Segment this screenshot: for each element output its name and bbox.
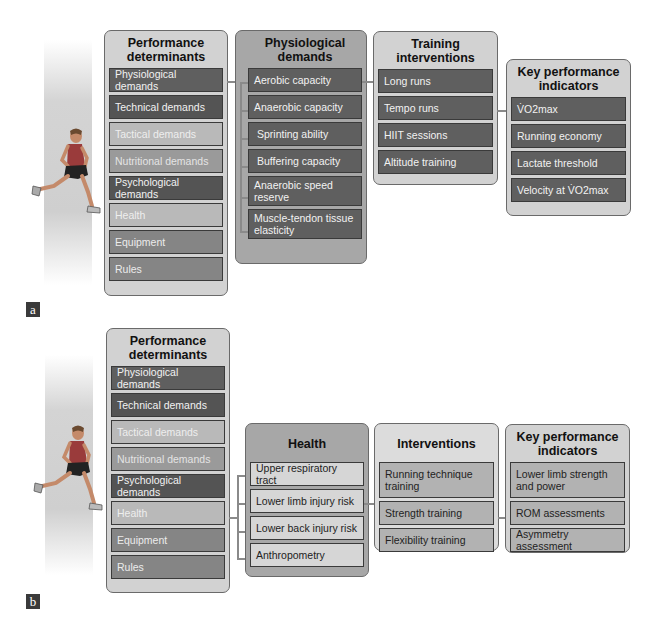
panel-title: Key performance indicators bbox=[511, 65, 626, 93]
item-flexibility-training[interactable]: Flexibility training bbox=[379, 528, 494, 552]
item-hiit-sessions[interactable]: HIIT sessions bbox=[378, 123, 493, 147]
item-label: Velocity at V̇O2max bbox=[517, 184, 609, 196]
bracket-line bbox=[240, 197, 248, 199]
item-physiological-demands[interactable]: Physiological demands bbox=[109, 68, 223, 92]
panel-title: Performance determinants bbox=[109, 36, 223, 64]
item-asymmetry-assessment[interactable]: Asymmetry assessment bbox=[510, 528, 625, 552]
performance-determinants-panel-b: Performance determinants Physiological d… bbox=[106, 328, 230, 593]
bracket-line bbox=[240, 231, 248, 233]
item-anaerobic-speed-reserve[interactable]: Anaerobic speed reserve bbox=[248, 176, 362, 206]
item-physiological-demands[interactable]: Physiological demands bbox=[111, 366, 225, 390]
item-technical-demands[interactable]: Technical demands bbox=[111, 393, 225, 417]
item-running-economy[interactable]: Running economy bbox=[511, 124, 626, 148]
item-lower-limb-strength-power[interactable]: Lower limb strength and power bbox=[510, 462, 625, 498]
item-sprinting-ability[interactable]: Sprinting ability bbox=[248, 122, 362, 146]
interventions-panel-b: Interventions Running technique training… bbox=[374, 423, 499, 551]
runner-illustration-icon bbox=[32, 425, 107, 517]
physiological-demands-panel-a: Physiological demands Aerobic capacity A… bbox=[235, 30, 367, 264]
kpi-panel-a: Key performance indicators V̇O2max Runni… bbox=[506, 59, 631, 216]
item-health[interactable]: Health bbox=[111, 501, 225, 525]
bracket-line bbox=[240, 82, 242, 232]
item-tactical-demands[interactable]: Tactical demands bbox=[111, 420, 225, 444]
item-label: V̇O2max bbox=[517, 103, 558, 115]
runner-illustration-icon bbox=[30, 128, 105, 220]
item-anthropometry[interactable]: Anthropometry bbox=[250, 543, 364, 567]
panel-title: Performance determinants bbox=[111, 334, 225, 362]
panel-label-b: b bbox=[26, 594, 40, 609]
item-psychological-demands[interactable]: Psychological demands bbox=[109, 176, 223, 200]
item-running-technique-training[interactable]: Running technique training bbox=[379, 462, 494, 498]
item-long-runs[interactable]: Long runs bbox=[378, 69, 493, 93]
item-tactical-demands[interactable]: Tactical demands bbox=[109, 122, 223, 146]
health-panel-b: Health Upper respiratory tract Lower lim… bbox=[245, 423, 369, 577]
item-tempo-runs[interactable]: Tempo runs bbox=[378, 96, 493, 120]
item-muscle-tendon-elasticity[interactable]: Muscle-tendon tissue elasticity bbox=[248, 209, 362, 239]
item-equipment[interactable]: Equipment bbox=[109, 230, 223, 254]
panel-label-a: a bbox=[26, 302, 40, 317]
item-velocity-at-vo2max[interactable]: Velocity at V̇O2max bbox=[511, 178, 626, 202]
item-technical-demands[interactable]: Technical demands bbox=[109, 95, 223, 119]
item-altitude-training[interactable]: Altitude training bbox=[378, 150, 493, 174]
performance-determinants-panel-a: Performance determinants Physiological d… bbox=[104, 30, 228, 296]
panel-title: Training interventions bbox=[378, 37, 493, 65]
training-interventions-panel-a: Training interventions Long runs Tempo r… bbox=[373, 31, 498, 185]
bracket-line bbox=[240, 138, 248, 140]
bracket-line bbox=[240, 82, 248, 84]
item-rules[interactable]: Rules bbox=[109, 257, 223, 281]
item-lactate-threshold[interactable]: Lactate threshold bbox=[511, 151, 626, 175]
bracket-line bbox=[237, 475, 239, 559]
item-equipment[interactable]: Equipment bbox=[111, 528, 225, 552]
panel-title: Physiological demands bbox=[248, 36, 362, 64]
item-buffering-capacity[interactable]: Buffering capacity bbox=[248, 149, 362, 173]
item-nutritional-demands[interactable]: Nutritional demands bbox=[109, 149, 223, 173]
item-upper-respiratory-tract[interactable]: Upper respiratory tract bbox=[250, 462, 364, 486]
panel-title: Health bbox=[250, 437, 364, 451]
item-lower-back-injury-risk[interactable]: Lower back injury risk bbox=[250, 516, 364, 540]
item-vo2max[interactable]: V̇O2max bbox=[511, 97, 626, 121]
item-psychological-demands[interactable]: Psychological demands bbox=[111, 474, 225, 498]
kpi-panel-b: Key performance indicators Lower limb st… bbox=[505, 424, 630, 553]
panel-title: Interventions bbox=[379, 437, 494, 451]
item-rules[interactable]: Rules bbox=[111, 555, 225, 579]
bracket-line bbox=[240, 166, 248, 168]
bracket-line bbox=[240, 110, 248, 112]
item-lower-limb-injury-risk[interactable]: Lower limb injury risk bbox=[250, 489, 364, 513]
item-strength-training[interactable]: Strength training bbox=[379, 501, 494, 525]
item-nutritional-demands[interactable]: Nutritional demands bbox=[111, 447, 225, 471]
item-anaerobic-capacity[interactable]: Anaerobic capacity bbox=[248, 95, 362, 119]
item-health[interactable]: Health bbox=[109, 203, 223, 227]
item-rom-assessments[interactable]: ROM assessments bbox=[510, 501, 625, 525]
item-aerobic-capacity[interactable]: Aerobic capacity bbox=[248, 68, 362, 92]
panel-title: Key performance indicators bbox=[510, 430, 625, 458]
